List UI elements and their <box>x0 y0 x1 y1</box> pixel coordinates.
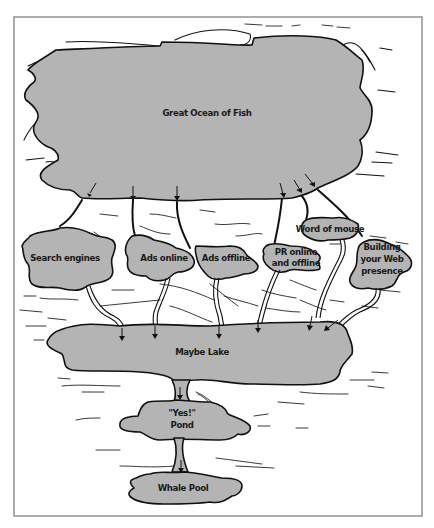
yes-pond-label-line-1: "Yes!" <box>168 408 195 418</box>
web-presence-label-line-2: your Web <box>360 254 403 264</box>
web-presence-label-line-3: presence <box>361 266 403 276</box>
word-of-mouse-label: Word of mouse <box>296 224 365 234</box>
whale-pool-label: Whale Pool <box>158 483 209 493</box>
search-engines-label: Search engines <box>30 253 100 263</box>
ads-online-label: Ads online <box>140 253 188 263</box>
lake-to-pond-channel <box>172 380 190 402</box>
pr-label-line-1: PR online <box>275 247 318 257</box>
funnel-map-diagram: Great Ocean of Fish Search engines Ads o… <box>0 0 434 528</box>
maybe-lake-label: Maybe Lake <box>175 347 229 357</box>
great-ocean-shape <box>25 36 372 201</box>
pr-label-line-2: and offline <box>272 258 321 268</box>
ads-offline-label: Ads offline <box>202 253 251 263</box>
web-presence-label-line-1: Building <box>363 242 400 252</box>
great-ocean-label: Great Ocean of Fish <box>162 108 251 118</box>
yes-pond-label-line-2: Pond <box>170 420 193 430</box>
